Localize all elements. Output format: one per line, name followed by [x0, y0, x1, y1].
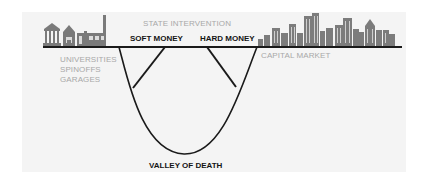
capital-market-label: CAPITAL MARKET [261, 52, 330, 60]
state-intervention-label: STATE INTERVENTION [143, 20, 231, 28]
city-skyline-icon [258, 13, 395, 46]
university-factory-icon [43, 15, 106, 46]
valley-curve [119, 47, 257, 154]
hard-money-bridge [207, 47, 236, 87]
soft-money-bridge [133, 47, 165, 88]
hard-money-label: HARD MONEY [200, 35, 255, 43]
valley-of-death-label: VALLEY OF DEATH [149, 162, 222, 170]
garages-label: GARAGES [60, 76, 100, 84]
soft-money-label: SOFT MONEY [130, 35, 183, 43]
spinoffs-label: SPINOFFS [60, 66, 101, 74]
universities-label: UNIVERSITIES [60, 56, 117, 64]
